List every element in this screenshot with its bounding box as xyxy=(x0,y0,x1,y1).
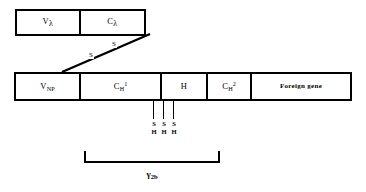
segment-v-np-label: VNP xyxy=(40,82,54,92)
segment-v-np-sub: NP xyxy=(47,84,55,91)
sh-label-2: S H xyxy=(160,120,168,135)
segment-c-lambda-sub: λ xyxy=(113,19,117,28)
sh-groups: S H S H S H xyxy=(150,100,190,140)
segment-hinge-label: H xyxy=(181,82,187,91)
sh-label-2-h: H xyxy=(160,128,168,136)
disulfide-s-letter-2: S xyxy=(111,41,117,48)
segment-foreign-gene: Foreign gene xyxy=(252,74,350,99)
segment-ch2-sup: 2 xyxy=(233,80,236,87)
segment-ch2: CH2 xyxy=(208,74,252,99)
sh-label-3-h: H xyxy=(170,128,178,136)
segment-hinge: H xyxy=(162,74,208,99)
segment-ch1-sup: 1 xyxy=(124,80,127,87)
heavy-chain-bar: VNP CH1 H CH2 Foreign gene xyxy=(14,72,352,101)
segment-ch1: CH1 xyxy=(81,74,162,99)
segment-v-lambda: Vλ xyxy=(17,11,81,34)
disulfide-s-letter-1: S xyxy=(88,52,94,59)
segment-c-lambda-label: Cλ xyxy=(107,17,117,28)
sh-label-2-s: S xyxy=(160,120,168,128)
sh-stalk-1 xyxy=(153,100,154,119)
segment-foreign-gene-label: Foreign gene xyxy=(280,83,322,90)
gamma-2b-sub: 2b xyxy=(151,173,158,180)
segment-v-lambda-sub: λ xyxy=(49,19,53,28)
sh-label-3-s: S xyxy=(170,120,178,128)
sh-label-3: S H xyxy=(170,120,178,135)
sh-stalk-2 xyxy=(163,100,164,119)
segment-c-lambda: Cλ xyxy=(81,11,145,34)
sh-label-1: S H xyxy=(150,120,158,135)
figure-canvas: Vλ Cλ S S VNP CH1 H CH2 Foreign gene xyxy=(0,0,366,192)
disulfide-line xyxy=(62,34,150,72)
sh-stalk-3 xyxy=(173,100,174,119)
gamma-2b-bracket xyxy=(84,151,220,163)
disulfide-line-svg xyxy=(60,32,152,74)
sh-label-1-h: H xyxy=(150,128,158,136)
sh-label-1-s: S xyxy=(150,120,158,128)
segment-ch2-label: CH2 xyxy=(222,81,235,92)
segment-v-np: VNP xyxy=(16,74,81,99)
segment-v-lambda-label: Vλ xyxy=(43,17,53,28)
segment-ch1-label: CH1 xyxy=(114,81,127,92)
segment-hinge-base: H xyxy=(181,81,187,91)
disulfide-bond: S S xyxy=(60,32,152,74)
gamma-2b-label: γ2b xyxy=(84,170,220,180)
